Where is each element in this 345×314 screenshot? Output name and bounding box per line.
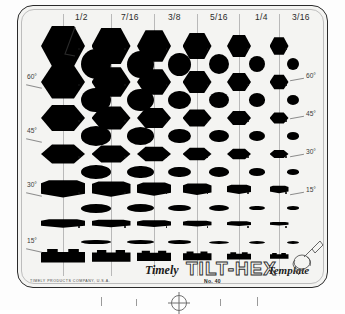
hex-cutout (183, 177, 212, 204)
registration-dot (124, 48, 126, 50)
circle-cutout (249, 241, 265, 244)
angle-label-left-45: 45° (27, 127, 37, 134)
circle-cutout (209, 54, 229, 74)
hex-cutout (41, 170, 85, 210)
product-logo: TILT-HEX (186, 258, 277, 280)
registration-dot (247, 84, 249, 86)
hex-cutout (41, 236, 85, 276)
manufacturer-text: TIMELY PRODUCTS COMPANY, U.S.A. (30, 279, 110, 284)
hex-cutout (270, 181, 289, 198)
circle-cutout (81, 165, 111, 179)
circle-cutout (249, 206, 265, 211)
registration-dot (166, 48, 168, 50)
hex-cutout (227, 179, 251, 201)
angle-label-left-30: 30° (27, 181, 37, 188)
registration-dot (124, 120, 126, 122)
hand-holding-pen-icon (290, 238, 326, 284)
crosshair-target-icon (168, 292, 190, 314)
hex-cutout (137, 174, 171, 205)
circle-cutout (209, 241, 229, 244)
circle-cutout (81, 204, 111, 213)
hex-cutout (183, 211, 212, 238)
caliper-bracket-icon (61, 26, 83, 60)
circle-cutout (81, 240, 111, 245)
tilt-hex-template-card: 1/2 7/16 3/8 5/16 1/4 3/16 60° 45° 30° 1… (17, 5, 328, 288)
registration-dot (78, 120, 80, 122)
hex-cutout (227, 213, 251, 235)
circle-cutout (287, 206, 299, 210)
hex-cutout (227, 71, 251, 93)
circle-cutout (168, 205, 191, 212)
registration-dot (285, 84, 287, 86)
registration-dot (78, 156, 80, 158)
hex-cutout (227, 35, 251, 57)
registration-dot (285, 156, 287, 158)
circle-cutout (249, 93, 265, 106)
circle-cutout (127, 240, 154, 244)
circle-cutout (209, 130, 229, 143)
hex-cutout (41, 204, 85, 244)
circle-cutout (168, 53, 191, 76)
registration-dot (124, 192, 126, 194)
angle-label-right-45: 45° (306, 110, 316, 117)
registration-dot (166, 226, 168, 228)
ruler-tick (136, 299, 137, 306)
registration-dot (124, 156, 126, 158)
hex-cutout (41, 134, 85, 174)
registration-dot (166, 192, 168, 194)
circle-cutout (168, 129, 191, 144)
circle-cutout (287, 132, 299, 140)
circle-cutout (249, 56, 265, 72)
registration-dot (285, 192, 287, 194)
circle-cutout (287, 169, 299, 175)
registration-dot (285, 120, 287, 122)
circle-cutout (127, 127, 154, 144)
ruler-tick (257, 297, 258, 306)
registration-dot (78, 192, 80, 194)
hex-cutout (41, 62, 85, 102)
registration-dot (166, 84, 168, 86)
circle-cutout (287, 58, 299, 70)
circle-cutout (127, 166, 154, 179)
hex-cutout (41, 98, 85, 138)
hex-cutout (270, 73, 289, 90)
circle-cutout (287, 95, 299, 105)
registration-dot (207, 226, 209, 228)
brand-name: Timely (145, 263, 179, 278)
hex-cutout (227, 107, 251, 129)
registration-dot (124, 84, 126, 86)
ruler-tick (101, 297, 102, 306)
circle-cutout (249, 168, 265, 176)
circle-cutout (249, 131, 265, 141)
hex-cutout (270, 109, 289, 126)
circle-cutout (209, 205, 229, 211)
angle-label-left-60: 60° (27, 73, 37, 80)
hex-cutout (183, 105, 212, 132)
circle-cutout (168, 91, 191, 110)
circle-cutout (209, 92, 229, 108)
hex-cutout (227, 143, 251, 165)
registration-dot (247, 156, 249, 158)
angle-label-right-15: 15° (306, 186, 316, 193)
hex-cutout (137, 208, 171, 239)
registration-dot (285, 48, 287, 50)
registration-dot (247, 192, 249, 194)
registration-dot (166, 120, 168, 122)
registration-dot (247, 48, 249, 50)
hex-cutout (183, 141, 212, 168)
registration-dot (285, 226, 287, 228)
hex-cutout (270, 215, 289, 232)
circle-cutout (168, 240, 191, 243)
circle-cutout (209, 167, 229, 176)
hex-cutout (270, 37, 289, 54)
registration-dot (124, 226, 126, 228)
registration-dot (78, 226, 80, 228)
circle-cutout (168, 167, 191, 178)
circle-cutout (127, 204, 154, 212)
ruler-tick (220, 299, 221, 306)
registration-dot (78, 84, 80, 86)
registration-dot (166, 156, 168, 158)
angle-label-left-15: 15° (27, 237, 37, 244)
hex-cutout (270, 145, 289, 162)
